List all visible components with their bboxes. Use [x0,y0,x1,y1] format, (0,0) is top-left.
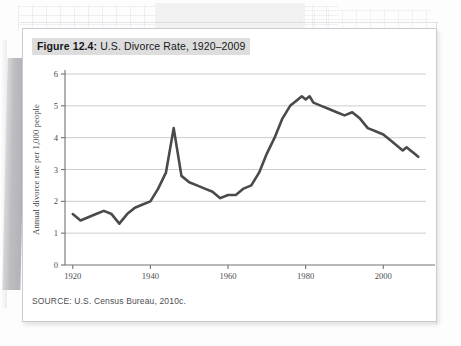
x-tick-label: 2000 [375,271,392,281]
chart-gridlines [65,74,426,233]
figure-source-note: SOURCE: U.S. Census Bureau, 2010c. [32,296,186,306]
y-tick-label: 5 [54,101,58,111]
chart-x-axis-ticks: 19201940196019802000 [64,265,392,281]
y-tick-label: 0 [54,260,58,270]
x-tick-label: 1980 [297,271,314,281]
y-tick-label: 2 [54,196,58,206]
x-tick-label: 1920 [64,271,81,281]
x-tick-label: 1940 [142,271,159,281]
chart-plot-area: 0123456 19201940196019802000 Annual divo… [23,29,438,323]
figure-card: Figure 12.4: U.S. Divorce Rate, 1920–200… [22,28,437,322]
y-axis-title-text: Annual divorce rate per 1,000 people [31,104,41,235]
y-tick-label: 6 [54,69,59,79]
chart-axis-lines [65,70,435,265]
y-tick-label: 3 [54,165,58,175]
y-tick-label: 1 [54,228,58,238]
x-tick-label: 1960 [219,271,236,281]
divorce-rate-line-chart: 0123456 19201940196019802000 Annual divo… [23,29,438,323]
chart-data-line [73,96,418,223]
y-tick-label: 4 [54,133,59,143]
scan-artifact-horizontal-rule [20,22,438,23]
chart-y-axis-ticks: 0123456 [54,69,65,270]
chart-y-axis-title: Annual divorce rate per 1,000 people [31,104,41,235]
